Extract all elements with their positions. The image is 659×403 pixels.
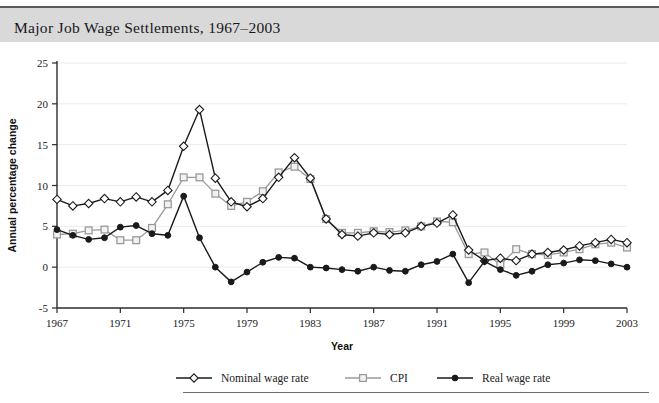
data-point-marker [512,256,520,264]
x-axis-tick-label: 1975 [173,317,196,329]
legend-label: Nominal wage rate [221,372,309,385]
data-point-marker [307,264,313,270]
x-axis-tick-label: 1967 [46,317,69,329]
data-point-marker [360,375,367,382]
series-line [57,167,627,265]
y-axis-tick-label: 0 [43,261,49,273]
data-point-marker [513,272,519,278]
legend-label: CPI [390,372,408,384]
data-point-marker [179,142,187,150]
data-point-marker [180,174,187,181]
data-point-marker [513,246,520,253]
data-point-marker [371,264,377,270]
data-point-marker [86,237,92,243]
data-point-marker [339,267,345,273]
data-point-marker [434,259,440,265]
x-axis-tick-label: 2003 [616,317,639,329]
figure-container: Major Job Wage Settlements, 1967–2003 25… [0,0,659,403]
data-point-marker [195,105,203,113]
data-point-marker [117,237,124,244]
data-point-marker [100,194,108,202]
data-point-marker [291,163,298,170]
data-point-marker [482,259,488,265]
data-point-marker [164,201,171,208]
x-axis-tick-label: 1987 [363,317,386,329]
data-point-marker [355,268,361,274]
data-point-marker [466,280,472,286]
page-title: Major Job Wage Settlements, 1967–2003 [14,19,281,37]
data-point-marker [149,231,155,237]
data-point-marker [116,198,124,206]
data-point-marker [497,267,503,273]
x-axis-tick-label: 1995 [489,317,512,329]
y-axis-tick-label: 25 [37,57,49,69]
x-axis-tick-label: 1999 [553,317,576,329]
y-axis-tick-label: -5 [39,302,49,314]
data-point-marker [561,260,567,266]
data-point-marker [418,262,424,268]
data-point-marker [117,224,123,230]
data-point-marker [228,279,234,285]
data-point-marker [165,232,171,238]
data-point-marker [481,249,488,256]
data-point-marker [197,235,203,241]
x-axis-title: Year [331,340,353,352]
y-axis-tick-label: 15 [37,139,49,151]
legend-item-nominal-wage-rate[interactable]: Nominal wage rate [176,372,309,385]
data-point-marker [132,193,140,201]
data-point-marker [592,258,598,264]
data-point-marker [54,227,60,233]
data-point-marker [181,193,187,199]
data-point-marker [102,235,108,241]
data-point-marker [69,202,77,210]
y-axis-ticks: 2520151050-5 [37,57,57,314]
legend-label: Real wage rate [482,372,550,385]
data-point-marker [85,227,92,234]
x-axis-tick-label: 1979 [236,317,259,329]
data-point-marker [449,211,457,219]
data-point-marker [260,259,266,265]
data-point-marker [53,195,61,203]
data-point-marker [196,174,203,181]
data-point-marker [450,251,456,257]
chart-legend: Nominal wage rateCPIReal wage rate [176,372,550,385]
data-point-marker [211,174,219,182]
data-point-marker [101,226,108,233]
data-point-marker [212,190,219,197]
data-point-marker [292,255,298,261]
chart-plot-area: 2520151050-5 196719711975197919831987199… [0,40,659,403]
data-point-marker [452,375,458,381]
x-axis-tick-label: 1971 [109,317,131,329]
x-axis-tick-label: 1983 [299,317,322,329]
legend-item-real-wage-rate[interactable]: Real wage rate [437,372,550,385]
title-band: Major Job Wage Settlements, 1967–2003 [0,6,659,42]
footer-divider [183,392,649,393]
data-point-marker [133,237,140,244]
wage-settlements-line-chart: 2520151050-5 196719711975197919831987199… [0,40,659,403]
y-axis-title: Annual percentage change [6,118,18,252]
data-point-marker [70,232,76,238]
data-point-marker [387,268,393,274]
data-point-marker [402,268,408,274]
x-axis-ticks: 1967197119751979198319871991199519992003 [46,308,639,329]
x-axis-tick-label: 1991 [426,317,448,329]
y-axis-tick-label: 5 [43,220,49,232]
data-series [53,105,631,285]
data-point-marker [577,257,583,263]
data-point-marker [323,265,329,271]
data-point-marker [84,199,92,207]
data-point-marker [244,269,250,275]
data-point-marker [212,264,218,270]
y-axis-tick-label: 10 [37,180,49,192]
data-point-marker [190,374,198,382]
data-point-marker [276,254,282,260]
data-point-marker [608,261,614,267]
legend-item-cpi[interactable]: CPI [345,372,408,384]
data-point-marker [529,268,535,274]
y-axis-tick-label: 20 [37,98,49,110]
data-point-marker [624,264,630,270]
data-point-marker [133,223,139,229]
data-point-marker [545,262,551,268]
